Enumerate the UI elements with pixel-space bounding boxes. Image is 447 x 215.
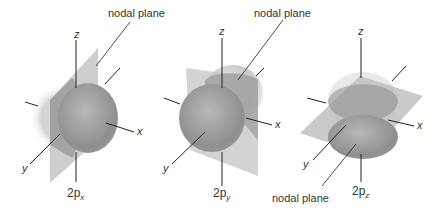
p-orbitals-diagram: nodal plane z x y 2px nodal plane z x y … [0, 0, 447, 215]
orbital-label-2pz: 2pz [352, 184, 369, 200]
x-axis-label: x [416, 119, 423, 131]
x-axis-back [307, 98, 326, 103]
lower-lobe [328, 115, 398, 159]
y-axis-back [256, 68, 264, 76]
y-axis-back [392, 66, 406, 81]
y-axis-label: y [21, 162, 29, 174]
x-axis-back [164, 98, 180, 104]
front-lobe [58, 83, 118, 153]
panel-2pz: nodal plane z x y 2pz [272, 25, 423, 204]
orbital-label-2px: 2px [67, 186, 85, 202]
panel-2py: nodal plane z x y 2py [162, 7, 311, 202]
nodal-plane-label: nodal plane [272, 192, 329, 204]
x-axis-label: x [274, 118, 281, 130]
y-axis-label: y [302, 158, 310, 170]
z-axis-label: z [357, 25, 364, 37]
x-axis-label: x [136, 125, 143, 137]
orbital-label-2py: 2py [213, 186, 231, 202]
front-lobe [179, 84, 245, 152]
nodal-plane-label: nodal plane [254, 7, 311, 19]
z-axis-label: z [73, 28, 80, 40]
nodal-plane-label: nodal plane [108, 7, 165, 19]
leader-line [96, 22, 130, 66]
y-axis-label: y [162, 162, 170, 174]
z-axis-label: z [218, 25, 225, 37]
y-axis-back [105, 68, 120, 84]
panel-2px: nodal plane z x y 2px [21, 7, 165, 202]
